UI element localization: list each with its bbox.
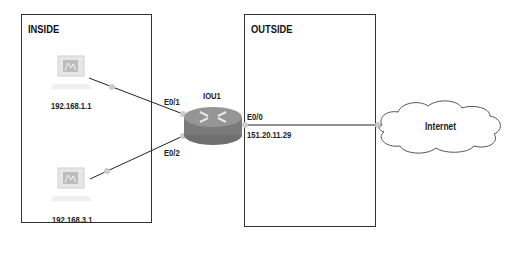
- router-name-label: IOU1: [203, 91, 221, 101]
- e02-label: E0/2: [164, 148, 180, 158]
- pc2-ip-label: 192.168.3.1: [52, 215, 92, 225]
- internet-label: Internet: [425, 121, 456, 132]
- e00-ip-label: 151.20.11.29: [247, 130, 291, 140]
- e01-label: E0/1: [164, 97, 180, 107]
- e00-label: E0/0: [247, 112, 263, 122]
- computer-icon: [50, 56, 92, 89]
- computer-icon: [50, 168, 92, 201]
- router-icon: [184, 107, 242, 145]
- pc1-ip-label: 192.168.1.1: [51, 101, 91, 111]
